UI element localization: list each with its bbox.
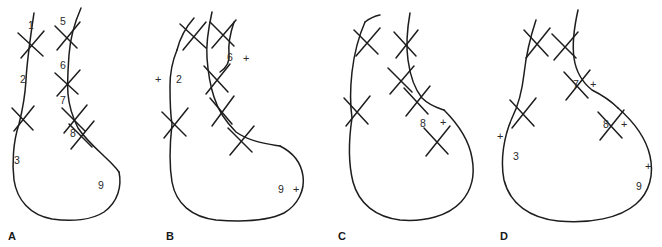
suture-label-b-6: 6 [227,52,233,63]
contour-right-d [573,10,618,108]
suture-label-5: 5 [60,16,66,27]
panel-c-drawing [330,0,490,247]
marker-plus-d-left: + [497,131,503,142]
panel-letter-d: D [500,231,508,242]
suture-label-7: 7 [60,95,66,106]
suture-label-d-7: 7 [573,79,579,90]
marker-plus-d-7: + [590,79,596,90]
figure-canvas: A 1 5 2 6 7 8 3 9 B + 2 [0,0,662,247]
contour-left-d [502,20,651,222]
marker-plus-b-left: + [155,74,161,85]
suture-label-b-9: 9 [278,184,284,195]
contour-upper-c [365,15,380,22]
marker-plus-d-9: + [645,161,651,172]
panel-b-drawing [150,0,320,247]
marker-plus-b-6: + [243,53,249,64]
suture-label-2: 2 [20,74,26,85]
marker-plus-c-8: + [440,117,446,128]
suture-label-3: 3 [14,155,20,166]
suture-label-1: 1 [28,20,34,31]
suture-label-b-2: 2 [176,74,182,85]
panel-letter-a: A [8,231,16,242]
marker-plus-d-8: + [621,119,627,130]
panel-a: A 1 5 2 6 7 8 3 9 [0,0,150,247]
panel-d: D 7 + 8 + + 3 + 9 [490,0,662,247]
suture-label-d-3: 3 [513,151,519,162]
contour-left-b [170,50,303,221]
contour-right-c [407,13,444,110]
panel-b: B + 2 6 + 9 + [150,0,320,247]
panel-c: C 8 + [330,0,490,247]
marker-plus-b-9: + [293,184,299,195]
stitch-mark-b7 [210,98,232,124]
suture-label-d-8: 8 [603,119,609,130]
suture-label-c-8: 8 [420,118,426,129]
panel-d-drawing [490,0,662,247]
suture-label-9: 9 [98,180,104,191]
suture-label-6: 6 [60,60,66,71]
panel-letter-c: C [338,231,346,242]
suture-label-8: 8 [70,128,76,139]
panel-letter-b: B [166,231,174,242]
suture-label-d-9: 9 [636,181,642,192]
panel-a-drawing [0,0,150,247]
contour-right-a [68,8,119,172]
